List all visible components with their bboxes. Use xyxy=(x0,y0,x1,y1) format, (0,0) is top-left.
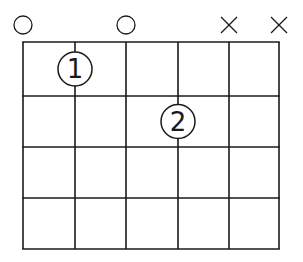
top-markers xyxy=(14,16,287,34)
muted-string-icon xyxy=(271,17,287,33)
open-string-icon xyxy=(14,16,32,34)
finger-number: 2 xyxy=(170,107,187,137)
finger-marker-1: 1 xyxy=(58,52,92,86)
finger-marker-2: 2 xyxy=(161,105,195,139)
open-string-icon xyxy=(117,16,135,34)
finger-number: 1 xyxy=(67,54,84,84)
muted-string-icon xyxy=(221,17,237,33)
chord-diagram: 12 xyxy=(0,0,303,262)
